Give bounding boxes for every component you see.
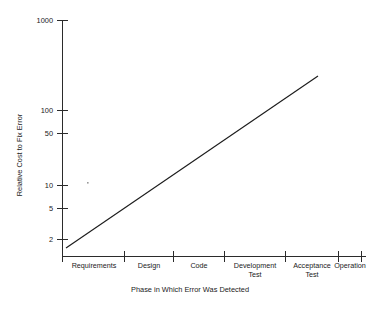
chart-plot-area: 1000 100 50 10 5 2 Relative Cost to Fix … (0, 0, 372, 309)
y-tick-label-5: 5 (49, 204, 53, 213)
x-tick-label-development-test-line1: Development (234, 261, 276, 270)
x-tick-label-development-test-line2: Test (248, 270, 261, 279)
x-tick-label-design: Design (138, 261, 160, 270)
cost-to-fix-error-chart: 1000 100 50 10 5 2 Relative Cost to Fix … (0, 0, 372, 309)
x-tick-label-operation: Operation (334, 261, 366, 270)
y-tick-label-2: 2 (49, 235, 53, 244)
y-axis-title: Relative Cost to Fix Error (15, 113, 24, 196)
x-tick-label-acceptance-test-line2: Test (305, 270, 318, 279)
y-tick-label-10: 10 (45, 181, 53, 190)
y-tick-label-100: 100 (41, 106, 53, 115)
x-tick-label-requirements: Requirements (72, 261, 117, 270)
y-tick-label-1000: 1000 (37, 16, 53, 25)
scan-speck (87, 182, 89, 184)
cost-curve-line (66, 76, 318, 248)
x-tick-label-code: Code (190, 261, 207, 270)
x-tick-label-acceptance-test-line1: Acceptance (293, 261, 331, 270)
y-tick-label-50: 50 (45, 129, 53, 138)
x-axis-title: Phase in Which Error Was Detected (131, 285, 249, 294)
